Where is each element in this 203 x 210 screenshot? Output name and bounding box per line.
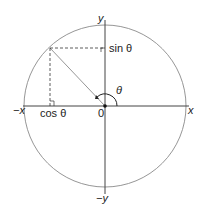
unit-circle-diagram: y −y x −x 0 cos θ sin θ θ xyxy=(0,0,203,210)
label-sin-theta: sin θ xyxy=(109,42,132,54)
label-x-neg: −x xyxy=(13,104,25,116)
theta-arc xyxy=(97,94,117,106)
label-origin: 0 xyxy=(98,107,104,119)
label-y-neg: −y xyxy=(96,192,109,204)
right-angle-marker-cos xyxy=(50,101,54,106)
label-y-pos: y xyxy=(97,12,105,24)
label-theta: θ xyxy=(116,84,122,96)
label-cos-theta: cos θ xyxy=(40,107,66,119)
label-x-pos: x xyxy=(187,104,194,116)
right-angle-marker-sin xyxy=(101,48,105,52)
